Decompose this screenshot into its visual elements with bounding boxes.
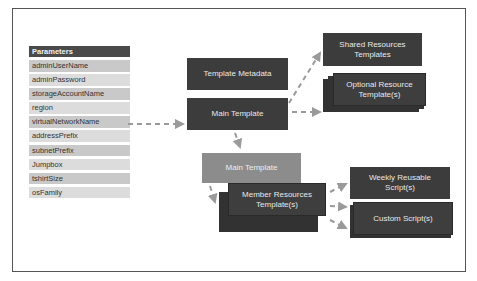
arrow-main-to-member-main: [235, 133, 240, 147]
arrow-member-to-custom-2: [330, 220, 346, 228]
arrow-main-to-shared: [289, 53, 320, 103]
arrow-member-to-custom: [330, 206, 346, 207]
arrow-member-to-weekly: [330, 184, 346, 192]
connector-arrows: [0, 0, 477, 281]
arrow-member-main-to-member-resources: [210, 186, 215, 202]
